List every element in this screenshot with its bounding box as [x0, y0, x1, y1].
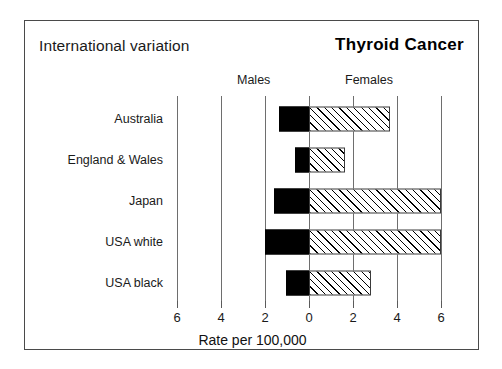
axis-tick-label: 0	[305, 310, 312, 325]
bar-row: Australia	[25, 98, 480, 139]
axis-tick-mark	[441, 301, 442, 308]
plot-area: AustraliaEngland & WalesJapanUSA whiteUS…	[25, 96, 480, 301]
bar-female	[309, 147, 345, 172]
bar-row: England & Wales	[25, 139, 480, 180]
bar-male	[265, 229, 309, 254]
bar-female	[309, 270, 371, 295]
category-label: Australia	[114, 112, 163, 126]
axis-tick-label: 6	[173, 310, 180, 325]
bar-row: USA white	[25, 221, 480, 262]
bar-row: USA black	[25, 262, 480, 303]
bar-female	[309, 106, 390, 131]
bar-row: Japan	[25, 180, 480, 221]
axis-tick-mark	[265, 301, 266, 308]
axis-tick-label: 4	[393, 310, 400, 325]
bar-female	[309, 229, 441, 254]
axis-tick-mark	[353, 301, 354, 308]
category-label: USA white	[105, 235, 163, 249]
axis-tick-mark	[397, 301, 398, 308]
chart-title: Thyroid Cancer	[335, 35, 464, 55]
x-axis: Rate per 100,000 6420246	[25, 301, 480, 351]
axis-tick-mark	[177, 301, 178, 308]
axis-tick-mark	[221, 301, 222, 308]
axis-tick-label: 6	[437, 310, 444, 325]
chart-subtitle: International variation	[39, 37, 190, 55]
axis-tick-mark	[309, 301, 310, 308]
category-label: USA black	[105, 276, 163, 290]
axis-tick-label: 2	[261, 310, 268, 325]
category-label: Japan	[129, 194, 163, 208]
chart-frame: International variation Thyroid Cancer M…	[24, 20, 479, 350]
category-label: England & Wales	[68, 153, 163, 167]
bar-male	[279, 106, 309, 131]
bar-male	[295, 147, 309, 172]
axis-tick-label: 4	[217, 310, 224, 325]
bar-male	[274, 188, 309, 213]
axis-tick-label: 2	[349, 310, 356, 325]
legend-label-females: Females	[345, 73, 393, 87]
axis-title: Rate per 100,000	[25, 332, 480, 348]
bar-female	[309, 188, 441, 213]
legend-label-males: Males	[237, 73, 270, 87]
bar-male	[286, 270, 309, 295]
